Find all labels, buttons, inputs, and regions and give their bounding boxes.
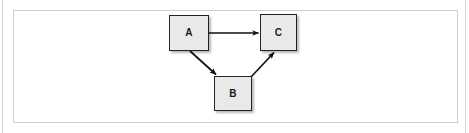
node-b-label: B [229, 89, 236, 99]
node-c-label: C [275, 28, 282, 38]
node-c[interactable]: C [260, 14, 297, 51]
edge-b-to-c [251, 53, 274, 78]
graph-edges-layer [0, 0, 469, 133]
node-b[interactable]: B [214, 76, 252, 111]
node-a[interactable]: A [169, 15, 209, 51]
diagram-screenshot: A B C [0, 0, 469, 133]
graph-canvas: A B C [0, 0, 469, 133]
edge-a-to-b [190, 51, 216, 75]
node-a-label: A [185, 28, 192, 38]
